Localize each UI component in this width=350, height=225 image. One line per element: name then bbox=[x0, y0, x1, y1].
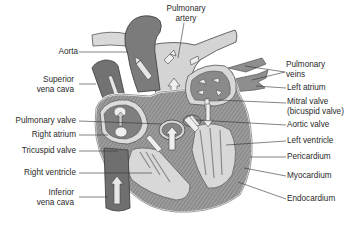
label-right-atrium: Right atrium bbox=[32, 130, 76, 140]
label-aortic-valve: Aortic valve bbox=[287, 120, 329, 130]
label-pericardium: Pericardium bbox=[287, 152, 331, 162]
inferior-vena-cava bbox=[104, 148, 130, 211]
label-inferior-vena-cava: Inferior vena cava bbox=[37, 188, 74, 207]
label-myocardium: Myocardium bbox=[287, 171, 332, 181]
label-right-ventricle: Right ventricle bbox=[24, 168, 76, 178]
label-pulmonary-veins: Pulmonary veins bbox=[286, 60, 325, 79]
label-pulmonary-valve: Pulmonary valve bbox=[15, 116, 76, 126]
label-tricuspid-valve: Tricuspid valve bbox=[22, 146, 76, 156]
label-superior-vena-cava: Superior vena cava bbox=[37, 75, 74, 94]
right-pulmonary-artery-branch bbox=[92, 32, 128, 46]
label-aorta: Aorta bbox=[58, 47, 78, 57]
label-endocardium: Endocardium bbox=[287, 194, 335, 204]
label-left-ventricle: Left ventricle bbox=[287, 136, 333, 146]
label-pulmonary-artery: Pulmonary artery bbox=[162, 4, 210, 23]
label-left-atrium: Left atrium bbox=[287, 83, 326, 93]
heart-diagram: Aorta Superior vena cava Pulmonary valve… bbox=[0, 0, 350, 225]
label-mitral-valve: Mitral valve (bicuspid valve) bbox=[287, 97, 344, 116]
